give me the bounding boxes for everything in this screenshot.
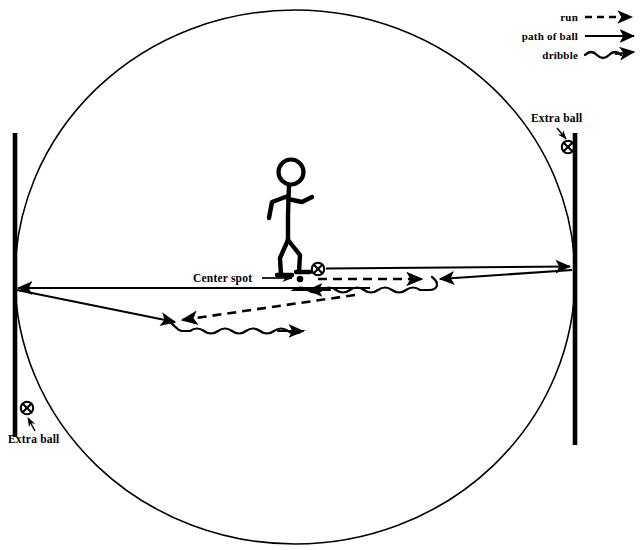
player-torso [288,185,289,240]
run-group [182,279,422,320]
extra-ball-top-right-label: Extra ball [531,112,583,124]
player-back-leg [280,240,288,275]
ball-path-right-outgoing [326,267,570,269]
field-circle-group [15,10,575,544]
soccer-drill-diagram: Center spot Extra ball Extra ball run pa… [0,0,643,550]
extra-ball-bottom-left-icon [21,402,33,414]
extra-ball-bottom-left-leader-line [28,418,35,431]
legend-item-path-of-ball: path of ball [522,30,634,42]
ball-path-left-return [17,290,175,322]
legend-label-dribble: dribble [542,49,578,61]
run-path-leftward [182,295,355,320]
player-back-arm [269,196,288,218]
player-front-leg [288,240,300,272]
player-front-arm [288,197,312,202]
ball-at-player-feet-icon [312,263,324,275]
extra-ball-top-right-leader-line [557,128,566,139]
dribble-group [170,277,437,334]
legend-item-run: run [560,11,632,23]
center-spot-label: Center spot [193,272,252,285]
stick-figure-player [269,160,312,276]
player-head-icon [279,160,304,185]
legend-label-run: run [560,11,578,23]
extra-ball-top-right-icon [562,141,574,153]
path-of-ball-group [17,267,572,323]
center-circle [15,10,575,544]
ball-path-right-return [440,270,572,279]
extra-ball-bottom-left-label: Extra ball [8,433,60,445]
legend-item-dribble: dribble [542,49,634,61]
legend-label-path-of-ball: path of ball [522,30,578,42]
legend: run path of ball dribble [522,11,634,61]
center-spot-dot [297,276,304,283]
diagram-canvas: Center spot Extra ball Extra ball run pa… [0,0,643,550]
